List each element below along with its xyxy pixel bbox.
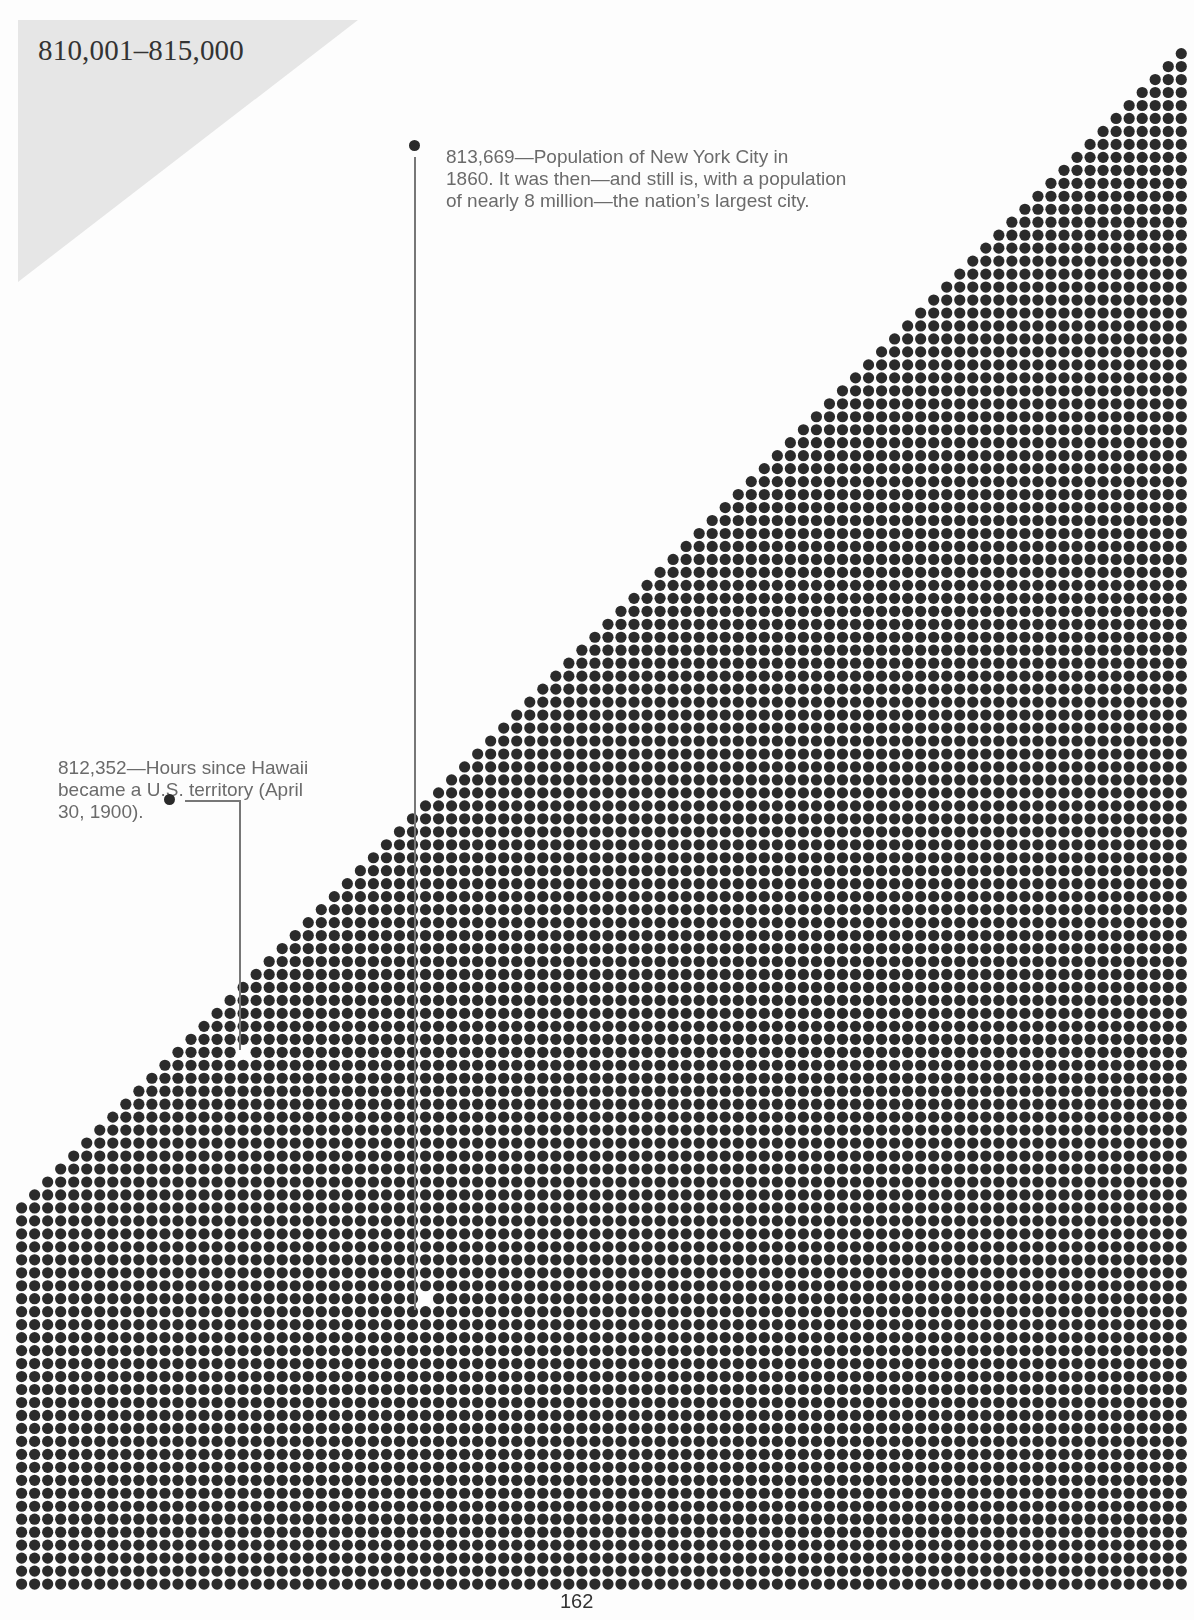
nyc-annotation-line-1: 813,669—Population of New York City in bbox=[446, 146, 946, 168]
nyc-marker-dot bbox=[409, 140, 420, 151]
page: 810,001–815,000 813,669—Population of Ne… bbox=[0, 0, 1194, 1620]
hawaii-leader-horizontal bbox=[185, 800, 241, 802]
nyc-annotation-line-2: 1860. It was then—and still is, with a p… bbox=[446, 168, 946, 190]
nyc-annotation-line-3: of nearly 8 million—the nation’s largest… bbox=[446, 190, 946, 212]
hawaii-annotation-line-1: 812,352—Hours since Hawaii bbox=[58, 757, 368, 779]
hawaii-annotation-line-3: 30, 1900). bbox=[58, 801, 368, 823]
nyc-annotation: 813,669—Population of New York City in 1… bbox=[446, 146, 946, 212]
hawaii-marker-dot bbox=[164, 794, 175, 805]
page-number: 162 bbox=[560, 1590, 593, 1613]
nyc-leader-line bbox=[414, 157, 416, 1310]
hawaii-annotation-line-2: became a U.S. territory (April bbox=[58, 779, 368, 801]
hawaii-leader-vertical bbox=[239, 800, 241, 1050]
hawaii-annotation: 812,352—Hours since Hawaii became a U.S.… bbox=[58, 757, 368, 823]
